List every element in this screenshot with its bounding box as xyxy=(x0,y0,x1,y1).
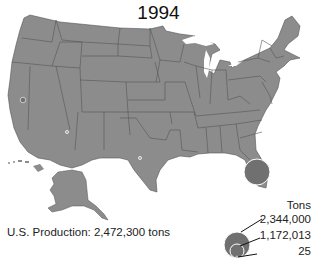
alaska xyxy=(48,170,108,220)
california-production-circle xyxy=(20,97,26,103)
hawaii xyxy=(8,160,44,172)
arizona-production-circle xyxy=(66,131,69,134)
legend-label-small: 25 xyxy=(298,245,311,257)
legend-label-medium: 1,172,013 xyxy=(260,229,311,241)
us-production-text: U.S. Production: 2,472,300 tons xyxy=(7,226,170,238)
florida-production-circle xyxy=(244,159,270,185)
legend-title: Tons xyxy=(287,199,311,211)
texas-production-circle xyxy=(139,157,142,160)
map-title: 1994 xyxy=(0,2,317,24)
legend-label-large: 2,344,000 xyxy=(260,213,311,225)
legend-circles xyxy=(224,219,262,258)
